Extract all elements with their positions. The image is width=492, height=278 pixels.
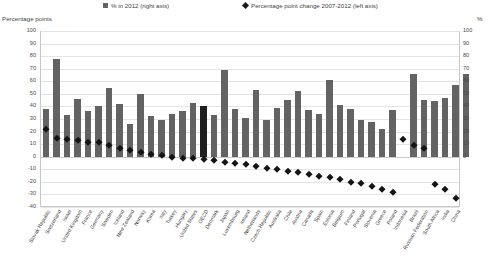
legend-swatch-bar-icon <box>103 3 108 8</box>
right-axis-tick-label: 60 <box>463 78 469 84</box>
left-axis-tick-label: -40 <box>18 204 36 210</box>
right-axis-tick-label: 100 <box>463 28 472 34</box>
diamond-marker <box>327 174 333 180</box>
diamond-marker <box>453 195 459 201</box>
legend-item-diamonds: Percentage point change 2007-2012 (left … <box>243 2 378 9</box>
diamond-marker <box>96 138 102 144</box>
diamond-marker <box>180 155 186 161</box>
diamond-marker <box>232 160 238 166</box>
legend-swatch-diamond-icon <box>242 2 249 9</box>
right-axis-tick-label: 30 <box>463 116 469 122</box>
right-axis-tick-label: 10 <box>463 141 469 147</box>
right-axis-tick-label: 50 <box>463 91 469 97</box>
diamond-marker <box>106 142 112 148</box>
left-axis-tick-label: 40 <box>18 103 36 109</box>
left-axis-tick-label: -20 <box>18 179 36 185</box>
left-axis-tick-label: 90 <box>18 41 36 47</box>
diamond-marker <box>64 136 70 142</box>
diamond-marker <box>442 186 448 192</box>
right-axis-caption: % <box>477 15 483 22</box>
right-axis-tick-label: 0 <box>463 154 466 160</box>
category-label: China <box>450 209 461 223</box>
right-axis-tick-label: 80 <box>463 53 469 59</box>
plot-area <box>40 31 460 207</box>
diamond-marker <box>54 135 60 141</box>
left-axis-tick-label: -10 <box>18 166 36 172</box>
left-axis-tick-label: 60 <box>18 78 36 84</box>
legend-label-diamonds: Percentage point change 2007-2012 (left … <box>251 2 378 9</box>
diamond-marker <box>348 179 354 185</box>
diamond-marker <box>379 186 385 192</box>
diamond-marker <box>264 165 270 171</box>
diamond-marker <box>43 126 49 132</box>
diamond-marker <box>148 151 154 157</box>
diamond-marker <box>169 153 175 159</box>
diamond-marker <box>253 162 259 168</box>
legend-item-bars: % in 2012 (right axis) <box>103 2 169 9</box>
diamond-marker <box>295 169 301 175</box>
diamond-marker <box>243 161 249 167</box>
left-axis-tick-label: 50 <box>18 91 36 97</box>
left-axis-caption: Percentage points <box>2 15 52 22</box>
diamond-marker <box>117 145 123 151</box>
diamond-marker <box>190 155 196 161</box>
diamond-marker <box>222 158 228 164</box>
diamond-marker <box>369 182 375 188</box>
diamond-marker <box>306 171 312 177</box>
diamond-marker <box>274 166 280 172</box>
diamond-marker <box>400 136 406 142</box>
right-axis-tick-label: 40 <box>463 103 469 109</box>
diamond-marker <box>201 156 207 162</box>
right-axis-tick-label: 70 <box>463 66 469 72</box>
diamond-marker <box>75 137 81 143</box>
category-axis-labels: Slovak RepublicSwitzerlandIsraelUnited K… <box>40 209 460 278</box>
diamond-marker <box>159 152 165 158</box>
left-axis-tick-label: 70 <box>18 66 36 72</box>
diamond-marker <box>316 172 322 178</box>
diamond-marker <box>411 142 417 148</box>
legend-label-bars: % in 2012 (right axis) <box>111 2 169 9</box>
diamond-marker <box>390 189 396 195</box>
diamond-marker <box>285 167 291 173</box>
diamond-series <box>41 31 459 206</box>
diamond-marker <box>127 147 133 153</box>
diamond-marker <box>421 145 427 151</box>
left-axis-tick-label: 80 <box>18 53 36 59</box>
left-axis-tick-label: 100 <box>18 28 36 34</box>
diamond-marker <box>211 157 217 163</box>
left-axis-tick-label: 0 <box>18 154 36 160</box>
left-axis-tick-label: -30 <box>18 191 36 197</box>
left-axis-tick-label: 30 <box>18 116 36 122</box>
chart-container: % in 2012 (right axis) Percentage point … <box>0 0 492 278</box>
gridline <box>41 207 459 208</box>
diamond-marker <box>358 180 364 186</box>
diamond-marker <box>337 176 343 182</box>
diamond-marker <box>432 181 438 187</box>
diamond-marker <box>138 148 144 154</box>
left-axis-tick-label: 20 <box>18 129 36 135</box>
chart-legend: % in 2012 (right axis) Percentage point … <box>0 1 492 14</box>
right-axis-tick-label: 90 <box>463 41 469 47</box>
right-axis-tick-label: 20 <box>463 129 469 135</box>
left-axis-tick-label: 10 <box>18 141 36 147</box>
diamond-marker <box>85 138 91 144</box>
category-label: Korea <box>145 209 156 224</box>
